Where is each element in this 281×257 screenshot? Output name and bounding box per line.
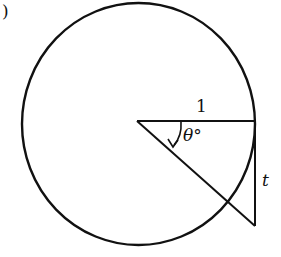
unit-circle bbox=[22, 3, 255, 245]
unit-circle-diagram: ) 1 θ° t bbox=[0, 0, 281, 257]
diagram-svg bbox=[0, 0, 281, 257]
arrowhead-icon bbox=[168, 139, 178, 147]
radius-label: 1 bbox=[196, 98, 207, 115]
tangent-label: t bbox=[262, 172, 269, 189]
part-label: ) bbox=[2, 3, 9, 20]
angle-label: θ° bbox=[183, 127, 202, 144]
